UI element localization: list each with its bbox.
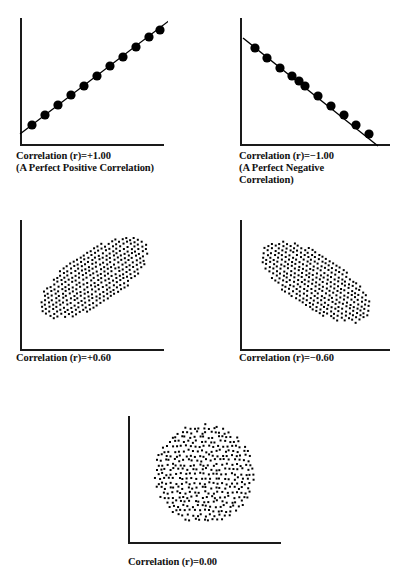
data-point [364,129,373,138]
data-point [262,53,271,62]
caption-perfect-negative: Correlation (r)=−1.00(A Perfect Negative… [239,150,334,187]
plot-axes [21,18,164,145]
scatter-plot-perfect-positive [18,14,168,150]
data-point [131,42,140,51]
data-point [339,110,348,119]
scatter-plot-moderate-negative [238,216,394,352]
data-point [275,63,284,72]
data-point [40,110,49,119]
scatter-panel-perfect-negative [238,14,394,150]
plot-axes [241,220,390,350]
data-points [250,43,373,138]
caption-line: Correlation (r)=−1.00 [239,150,334,162]
scatter-plot-zero-correlation [126,410,286,546]
data-point [92,71,101,80]
scatter-panel-zero-correlation [126,410,286,546]
scatter-panel-moderate-positive [18,216,168,352]
caption-line: (A Perfect Negative [239,162,334,174]
correlation-scatterplot-figure: Correlation (r)=+1.00(A Perfect Positive… [0,0,403,585]
caption-perfect-positive: Correlation (r)=+1.00(A Perfect Positive… [16,150,154,174]
data-point [250,43,259,52]
data-point [351,120,360,129]
scatter-panel-moderate-negative [238,216,394,352]
caption-line: Correlation) [239,174,334,186]
data-point [144,32,153,41]
data-point [105,61,114,70]
caption-moderate-negative: Correlation (r)=−0.60 [239,352,334,364]
data-point [300,81,309,90]
caption-line: Correlation (r)=+0.60 [16,352,111,364]
scatter-point-cloud [154,423,255,521]
data-points [27,25,164,129]
scatter-point-cloud [41,237,149,319]
data-point [118,52,127,61]
scatter-point-cloud [262,241,371,324]
caption-line: (A Perfect Positive Correlation) [16,162,154,174]
caption-line: Correlation (r)=0.00 [128,556,217,568]
scatter-plot-moderate-positive [18,216,168,352]
scatter-panel-perfect-positive [18,14,168,150]
plot-axes [21,220,164,350]
caption-line: Correlation (r)=−0.60 [239,352,334,364]
data-point [155,25,164,34]
caption-zero-correlation: Correlation (r)=0.00 [128,556,217,568]
data-point [27,120,36,129]
caption-line: Correlation (r)=+1.00 [16,150,154,162]
data-point [313,91,322,100]
data-point [79,81,88,90]
plot-axes [241,18,390,145]
data-point [53,100,62,109]
scatter-plot-perfect-negative [238,14,394,150]
caption-moderate-positive: Correlation (r)=+0.60 [16,352,111,364]
trendline [243,38,378,146]
data-point [326,101,335,110]
data-point [66,90,75,99]
